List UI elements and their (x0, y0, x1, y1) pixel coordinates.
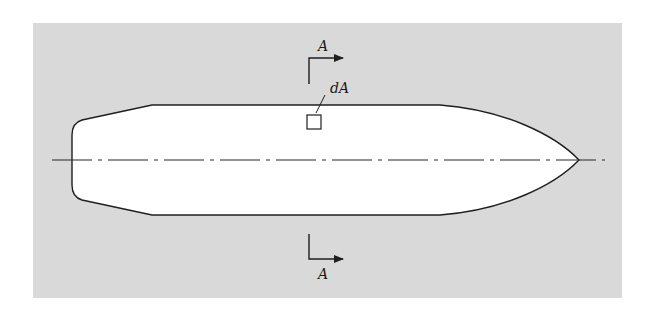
small-square-icon (307, 115, 321, 129)
section-label-bottom: A (316, 266, 328, 282)
section-label-top: A (316, 38, 328, 54)
ship-hull-diagram: A dA A (0, 0, 647, 325)
area-element-label: dA (330, 80, 349, 96)
